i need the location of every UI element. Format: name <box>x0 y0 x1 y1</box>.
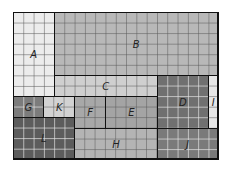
region-label: A <box>14 49 54 60</box>
region-label: D <box>158 96 209 107</box>
region-d: D <box>157 75 210 129</box>
region-label: I <box>209 96 217 107</box>
region-e: E <box>105 96 158 129</box>
region-label: K <box>44 102 74 113</box>
region-l: L <box>13 117 76 159</box>
region-h: H <box>74 128 157 160</box>
region-j: J <box>157 128 219 160</box>
region-k: K <box>43 96 75 118</box>
region-c: C <box>54 75 158 97</box>
region-b: B <box>54 12 219 76</box>
region-label: B <box>55 38 218 49</box>
region-label: F <box>75 107 105 118</box>
region-f: F <box>74 96 106 129</box>
region-g: G <box>13 96 45 118</box>
region-label: J <box>158 138 218 149</box>
region-i: I <box>208 75 218 129</box>
region-label: C <box>55 80 157 91</box>
region-label: L <box>14 133 75 144</box>
region-a: A <box>13 12 55 98</box>
grid-board: ABCDIGKFELHJ <box>13 12 219 160</box>
region-label: H <box>75 138 156 149</box>
region-label: E <box>106 107 157 118</box>
region-label: G <box>14 102 44 113</box>
